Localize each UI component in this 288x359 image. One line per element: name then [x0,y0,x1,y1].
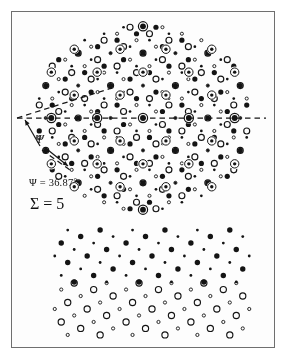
psi-value-label: Ψ = 36.87° [29,177,78,188]
figure-container: Ψ = 36.87° Σ = 5 Ψ [0,0,288,359]
psi-angle-symbol: Ψ [35,132,44,147]
sigma-value-label: Σ = 5 [30,195,64,213]
